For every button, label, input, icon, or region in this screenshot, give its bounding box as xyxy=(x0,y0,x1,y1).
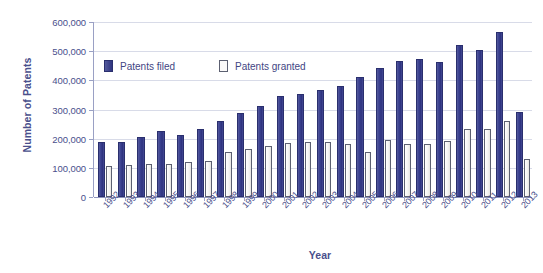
legend-item-patents-granted: Patents granted xyxy=(219,60,306,72)
bar-patents-granted xyxy=(285,143,291,197)
y-tick-mark xyxy=(89,168,93,169)
year-group xyxy=(354,22,374,197)
bar-patents-filed xyxy=(237,113,244,197)
bar-patents-granted xyxy=(484,129,490,197)
year-group xyxy=(394,22,414,197)
bar-patents-granted xyxy=(504,121,510,197)
bar-patents-granted xyxy=(365,152,371,197)
bar-patents-granted xyxy=(444,141,450,197)
bar-patents-granted xyxy=(404,144,410,197)
bar-patents-granted xyxy=(265,146,271,197)
y-tick-mark xyxy=(89,80,93,81)
year-group xyxy=(95,22,115,197)
year-group xyxy=(294,22,314,197)
year-group xyxy=(453,22,473,197)
year-group xyxy=(314,22,334,197)
y-tick-mark xyxy=(89,22,93,23)
year-group xyxy=(195,22,215,197)
patents-bar-chart: Number of Patents 600,000500,000400,0003… xyxy=(0,0,543,273)
bar-patents-filed xyxy=(436,62,443,197)
bar-patents-filed xyxy=(516,112,523,197)
chart-legend: Patents filed Patents granted xyxy=(104,60,306,72)
y-tick-mark xyxy=(89,51,93,52)
year-group xyxy=(135,22,155,197)
bar-patents-filed xyxy=(476,50,483,197)
bar-patents-granted xyxy=(325,142,331,197)
bar-patents-granted xyxy=(305,142,311,197)
y-tick-label: 200,000 xyxy=(52,133,86,144)
year-group xyxy=(254,22,274,197)
year-group xyxy=(115,22,135,197)
bar-patents-filed xyxy=(317,90,324,197)
bar-patents-filed xyxy=(297,94,304,197)
legend-label-patents-granted: Patents granted xyxy=(235,61,306,72)
year-group xyxy=(513,22,533,197)
year-group xyxy=(274,22,294,197)
bar-patents-filed xyxy=(118,142,125,197)
bar-patents-filed xyxy=(98,142,105,197)
bar-patents-filed xyxy=(337,86,344,197)
y-tick-label: 0 xyxy=(81,192,86,203)
bar-patents-filed xyxy=(277,96,284,197)
year-group xyxy=(334,22,354,197)
y-tick-mark xyxy=(89,139,93,140)
y-tick-label: 500,000 xyxy=(52,46,86,57)
bar-patents-filed xyxy=(217,121,224,197)
y-tick-mark xyxy=(89,110,93,111)
open-square-icon xyxy=(219,60,228,72)
bar-patents-filed xyxy=(416,59,423,197)
filled-square-icon xyxy=(104,60,113,72)
bar-patents-filed xyxy=(356,77,363,197)
bar-patents-filed xyxy=(257,106,264,197)
y-tick-label: 300,000 xyxy=(52,104,86,115)
y-tick-mark xyxy=(89,197,93,198)
x-axis-title: Year xyxy=(110,249,530,261)
bar-patents-granted xyxy=(424,144,430,197)
legend-label-patents-filed: Patents filed xyxy=(120,61,175,72)
bar-patents-filed xyxy=(197,129,204,197)
bar-patents-filed xyxy=(456,45,463,197)
bar-patents-granted xyxy=(245,149,251,197)
y-tick-label: 600,000 xyxy=(52,17,86,28)
bar-patents-filed xyxy=(376,68,383,197)
year-group xyxy=(234,22,254,197)
bar-patents-filed xyxy=(137,137,144,197)
year-group xyxy=(433,22,453,197)
bars-layer xyxy=(95,22,532,197)
year-group xyxy=(473,22,493,197)
bar-patents-granted xyxy=(345,144,351,197)
y-tick-label: 100,000 xyxy=(52,162,86,173)
bar-patents-granted xyxy=(225,152,231,197)
bar-patents-filed xyxy=(157,131,164,198)
x-tick-labels: 1992199319941995199619971998199920002001… xyxy=(93,199,531,245)
bar-patents-filed xyxy=(177,135,184,197)
year-group xyxy=(214,22,234,197)
legend-item-patents-filed: Patents filed xyxy=(104,60,175,72)
y-axis-title: Number of Patents xyxy=(18,20,36,190)
bar-patents-granted xyxy=(464,129,470,197)
year-group xyxy=(414,22,434,197)
year-group xyxy=(493,22,513,197)
y-tick-label: 400,000 xyxy=(52,75,86,86)
year-group xyxy=(374,22,394,197)
bar-patents-filed xyxy=(396,61,403,198)
plot-area: 600,000500,000400,000300,000200,000100,0… xyxy=(93,22,532,197)
bar-patents-granted xyxy=(385,140,391,197)
year-group xyxy=(175,22,195,197)
bar-patents-filed xyxy=(496,32,503,197)
year-group xyxy=(155,22,175,197)
